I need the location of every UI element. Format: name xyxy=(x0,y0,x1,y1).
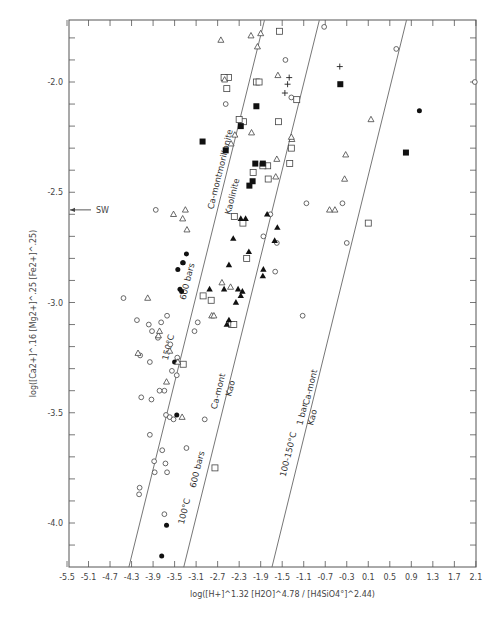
open-circle-point xyxy=(195,320,200,325)
open-square-point xyxy=(256,79,262,85)
open-circle-point xyxy=(261,234,266,239)
filled-triangle-point xyxy=(230,235,236,241)
y-axis-ticks: -2.0-2.5-3.0-3.5-4.0 xyxy=(47,38,476,545)
x-tick-label: -0.3 xyxy=(339,573,355,582)
filled-triangle-point xyxy=(221,286,227,292)
open-circle-point xyxy=(223,102,228,107)
filled-square-point xyxy=(260,161,266,167)
x-tick-label: 0.5 xyxy=(383,573,396,582)
open-circle-point xyxy=(202,417,207,422)
filled-triangle-point xyxy=(235,286,241,292)
annotations: SW xyxy=(70,206,109,215)
open-circle-point xyxy=(283,58,288,63)
open-circle-point xyxy=(170,368,175,373)
open-triangle-point xyxy=(327,207,333,212)
open-circle-point xyxy=(137,485,142,490)
open-square-point xyxy=(365,220,371,226)
open-square-point xyxy=(200,293,206,299)
open-triangle-point xyxy=(145,295,151,300)
open-circle-point xyxy=(147,432,152,437)
boundary-lines: Ca-montmorilloniteKaolinite600 bars150°C… xyxy=(129,20,407,567)
filled-triangle-point xyxy=(246,248,252,254)
boundary-line xyxy=(272,20,407,567)
y-tick-label: -3.5 xyxy=(47,409,63,418)
x-tick-label: 1.3 xyxy=(426,573,439,582)
open-circle-point xyxy=(344,241,349,246)
open-triangle-point xyxy=(249,130,255,135)
open-circle-point xyxy=(162,512,167,517)
filled-triangle-point xyxy=(233,299,239,305)
open-circle-point xyxy=(152,459,157,464)
filled-triangle-point xyxy=(260,273,266,279)
y-tick-label: -2.0 xyxy=(47,78,63,87)
open-triangle-point xyxy=(275,72,281,77)
open-square-point xyxy=(231,322,237,328)
open-square-point xyxy=(265,176,271,182)
sw-arrow-head-icon xyxy=(70,208,75,212)
open-triangle-point xyxy=(228,284,234,289)
x-tick-label: -2.3 xyxy=(231,573,247,582)
open-triangle-point xyxy=(368,116,374,121)
axis-titles: log([H+]^1.32 [H2O]^4.78 / [H4SiO4°]^2.4… xyxy=(29,230,375,599)
sw-label: SW xyxy=(96,206,109,215)
x-tick-label: -2.7 xyxy=(210,573,226,582)
open-triangle-point xyxy=(274,156,280,161)
open-square-point xyxy=(244,255,250,261)
open-circle-point xyxy=(184,446,189,451)
x-tick-label: -1.1 xyxy=(296,573,312,582)
line-label-600-bars-2: 600 bars xyxy=(188,449,207,488)
open-circle-point xyxy=(165,470,170,475)
open-circle-point xyxy=(273,269,278,274)
open-circle-point xyxy=(322,24,327,29)
x-tick-label: -4.7 xyxy=(102,573,118,582)
open-square-point xyxy=(208,297,214,303)
line-label-600-bars: 600 bars xyxy=(178,261,197,300)
open-circle-point xyxy=(153,207,158,212)
filled-circle-point xyxy=(417,108,422,113)
line-label-100c: 100°C xyxy=(176,497,192,525)
scatter-chart: -5.5-5.1-4.7-4.3-3.9-3.5-3.1-2.7-2.3-1.9… xyxy=(0,0,501,625)
x-tick-label: -4.3 xyxy=(124,573,140,582)
open-square-point xyxy=(231,214,237,220)
open-square-point xyxy=(294,97,300,103)
open-triangle-point xyxy=(288,134,294,139)
open-triangle-point xyxy=(342,176,348,181)
x-tick-label: -1.5 xyxy=(274,573,290,582)
filled-circle-point xyxy=(175,267,180,272)
data-points xyxy=(121,24,477,558)
open-triangle-point xyxy=(157,328,163,333)
filled-triangle-point xyxy=(206,286,212,292)
open-circle-point xyxy=(165,313,170,318)
open-square-point xyxy=(250,169,256,175)
open-square-point xyxy=(277,28,283,34)
filled-circle-point xyxy=(164,523,169,528)
open-triangle-point xyxy=(171,211,177,216)
open-triangle-point xyxy=(219,279,225,284)
open-circle-point xyxy=(300,313,305,318)
open-circle-point xyxy=(168,342,173,347)
open-triangle-point xyxy=(164,379,170,384)
x-tick-label: 2.1 xyxy=(470,573,483,582)
filled-triangle-point xyxy=(226,317,232,323)
open-triangle-point xyxy=(180,216,186,221)
open-triangle-point xyxy=(258,30,264,35)
x-tick-label: 0.1 xyxy=(362,573,375,582)
x-tick-label: 1.7 xyxy=(448,573,461,582)
x-tick-label: -0.7 xyxy=(317,573,333,582)
open-circle-point xyxy=(192,329,197,334)
filled-triangle-point xyxy=(226,262,232,268)
open-square-point xyxy=(224,86,230,92)
filled-triangle-point xyxy=(260,266,266,272)
line-label-kaolinite: Kaolinite xyxy=(223,177,242,215)
x-tick-label: 0.9 xyxy=(405,573,418,582)
open-circle-point xyxy=(135,318,140,323)
filled-square-point xyxy=(238,123,244,129)
open-square-point xyxy=(275,119,281,125)
x-tick-label: -5.5 xyxy=(59,573,75,582)
filled-circle-point xyxy=(174,412,179,417)
y-tick-label: -3.0 xyxy=(47,299,63,308)
open-circle-point xyxy=(160,448,165,453)
open-square-point xyxy=(212,465,218,471)
open-circle-point xyxy=(163,461,168,466)
open-triangle-point xyxy=(273,174,279,179)
